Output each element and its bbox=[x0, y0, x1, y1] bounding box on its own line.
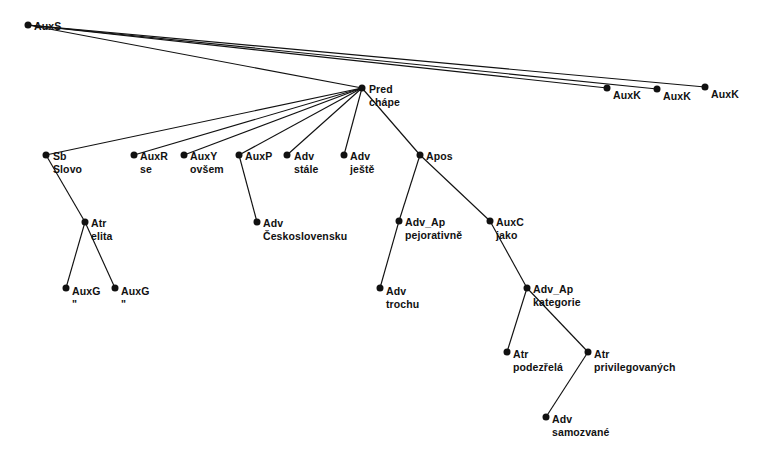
tree-node-pred[interactable] bbox=[359, 85, 366, 92]
tree-node-label: Atrpodezřelá bbox=[513, 348, 563, 373]
tree-node-adv[interactable] bbox=[284, 152, 291, 159]
tree-node-label: Advsamozvané bbox=[552, 413, 610, 438]
node-afun-label: Adv_Ap bbox=[533, 283, 581, 296]
node-afun-label: AuxY bbox=[190, 150, 224, 163]
tree-node-auxr[interactable] bbox=[131, 152, 138, 159]
tree-node-apos[interactable] bbox=[417, 152, 424, 159]
tree-edge bbox=[28, 25, 607, 88]
node-word-label: " bbox=[121, 298, 149, 311]
node-word-label: jako bbox=[496, 229, 524, 242]
node-afun-label: Adv bbox=[263, 217, 347, 230]
tree-node-auxs[interactable] bbox=[25, 22, 32, 29]
tree-node-label: Predchápe bbox=[369, 83, 400, 108]
tree-node-sb[interactable] bbox=[43, 152, 50, 159]
node-word-label: Československu bbox=[263, 230, 347, 243]
tree-edges-layer bbox=[0, 0, 770, 465]
tree-edge bbox=[344, 88, 362, 155]
tree-edge bbox=[399, 155, 420, 221]
tree-edge bbox=[239, 155, 257, 222]
node-word-label: podezřelá bbox=[513, 361, 563, 374]
node-afun-label: AuxK bbox=[663, 90, 691, 103]
tree-edge bbox=[28, 25, 657, 89]
tree-node-label: Adv_Appejorativně bbox=[405, 216, 462, 241]
node-word-label: samozvané bbox=[552, 426, 610, 439]
tree-node-label: Advještě bbox=[350, 150, 374, 175]
node-afun-label: AuxC bbox=[496, 216, 524, 229]
node-afun-label: Atr bbox=[91, 217, 113, 230]
node-afun-label: Atr bbox=[594, 348, 675, 361]
tree-edge bbox=[287, 88, 362, 155]
tree-node-atr[interactable] bbox=[82, 219, 89, 226]
tree-node-auxk[interactable] bbox=[604, 85, 611, 92]
node-word-label: elita bbox=[91, 230, 113, 243]
node-afun-label: AuxS bbox=[34, 20, 61, 33]
tree-node-label: AuxP bbox=[245, 150, 272, 163]
node-afun-label: Sb bbox=[53, 150, 82, 163]
tree-edge bbox=[420, 155, 490, 221]
tree-node-auxk[interactable] bbox=[654, 86, 661, 93]
tree-node-label: AuxK bbox=[613, 89, 641, 102]
tree-node-adv[interactable] bbox=[254, 219, 261, 226]
node-afun-label: Apos bbox=[426, 150, 453, 163]
tree-node-label: SbSlovo bbox=[53, 150, 82, 175]
node-afun-label: Adv bbox=[350, 150, 374, 163]
tree-node-label: AuxCjako bbox=[496, 216, 524, 241]
node-word-label: privilegovaných bbox=[594, 361, 675, 374]
tree-edge bbox=[66, 222, 85, 288]
tree-node-adv[interactable] bbox=[377, 285, 384, 292]
node-afun-label: AuxG bbox=[72, 285, 100, 298]
node-word-label: pejorativně bbox=[405, 229, 462, 242]
tree-node-auxk[interactable] bbox=[702, 84, 709, 91]
node-word-label: stále bbox=[294, 163, 318, 176]
node-word-label: chápe bbox=[369, 96, 400, 109]
node-afun-label: AuxR bbox=[140, 150, 168, 163]
tree-edge bbox=[184, 88, 362, 155]
node-word-label: ještě bbox=[350, 163, 374, 176]
node-word-label: ovšem bbox=[190, 163, 224, 176]
tree-node-label: AuxRse bbox=[140, 150, 168, 175]
tree-node-adv[interactable] bbox=[341, 152, 348, 159]
node-afun-label: AuxP bbox=[245, 150, 272, 163]
tree-node-label: Atrelita bbox=[91, 217, 113, 242]
node-afun-label: AuxG bbox=[121, 285, 149, 298]
tree-node-label: AuxYovšem bbox=[190, 150, 224, 175]
tree-node-label: Adv_Apkategorie bbox=[533, 283, 581, 308]
tree-node-auxp[interactable] bbox=[236, 152, 243, 159]
node-word-label: se bbox=[140, 163, 168, 176]
node-afun-label: AuxK bbox=[613, 89, 641, 102]
node-word-label: kategorie bbox=[533, 296, 581, 309]
tree-node-auxg[interactable] bbox=[63, 285, 70, 292]
tree-node-label: AuxG" bbox=[121, 285, 149, 310]
tree-node-label: AdvČeskoslovensku bbox=[263, 217, 347, 242]
tree-node-label: AuxS bbox=[34, 20, 61, 33]
tree-node-label: Atrprivilegovaných bbox=[594, 348, 675, 373]
tree-node-adv_ap[interactable] bbox=[524, 285, 531, 292]
node-word-label: " bbox=[72, 298, 100, 311]
tree-node-adv_ap[interactable] bbox=[396, 218, 403, 225]
tree-edge bbox=[134, 88, 362, 155]
tree-node-label: Advtrochu bbox=[386, 285, 419, 310]
node-afun-label: Adv bbox=[552, 413, 610, 426]
tree-node-label: Apos bbox=[426, 150, 453, 163]
tree-edge bbox=[46, 88, 362, 155]
tree-node-auxg[interactable] bbox=[112, 285, 119, 292]
node-word-label: trochu bbox=[386, 298, 419, 311]
tree-node-atr[interactable] bbox=[504, 349, 511, 356]
tree-edge bbox=[28, 25, 362, 88]
tree-node-label: Advstále bbox=[294, 150, 318, 175]
tree-edge bbox=[28, 25, 705, 87]
node-word-label: Slovo bbox=[53, 163, 82, 176]
tree-edge bbox=[380, 221, 399, 288]
tree-edge bbox=[239, 88, 362, 155]
tree-node-label: AuxK bbox=[711, 88, 739, 101]
tree-edge bbox=[507, 288, 527, 352]
tree-node-adv[interactable] bbox=[543, 414, 550, 421]
tree-node-label: AuxK bbox=[663, 90, 691, 103]
tree-node-auxc[interactable] bbox=[487, 218, 494, 225]
tree-node-auxy[interactable] bbox=[181, 152, 188, 159]
tree-node-label: AuxG" bbox=[72, 285, 100, 310]
node-afun-label: Pred bbox=[369, 83, 400, 96]
node-afun-label: Adv_Ap bbox=[405, 216, 462, 229]
node-afun-label: Atr bbox=[513, 348, 563, 361]
tree-node-atr[interactable] bbox=[585, 349, 592, 356]
